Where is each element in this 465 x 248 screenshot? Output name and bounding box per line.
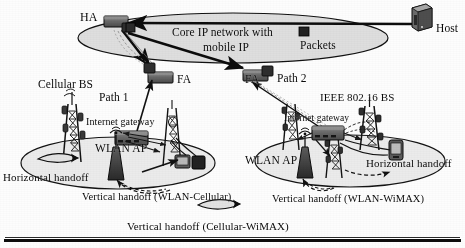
packets-label: Packets: [300, 40, 336, 52]
left-horizontal-handoff-label: Horizontal handoff: [3, 172, 89, 183]
packet-marker: [299, 27, 309, 36]
ha-label: HA: [80, 11, 98, 23]
right-wlan-ap-label: WLAN AP: [245, 155, 297, 167]
right-horizontal-handoff-label: Horizontal handoff: [366, 158, 452, 169]
cross-cell-vertical-handoff-label: Vertical handoff (Cellular-WiMAX): [127, 221, 289, 232]
path1-label: Path 1: [99, 92, 129, 104]
packet-marker: [126, 23, 135, 32]
core-network-label-line1: Core IP network with: [172, 27, 273, 39]
left-cell-handset: [192, 156, 205, 169]
left-vertical-handoff-label: Vertical handoff (WLAN-Cellular): [82, 192, 231, 203]
core-network-label-line2: mobile IP: [203, 42, 249, 54]
path2-label: Path 2: [277, 73, 307, 85]
network-architecture-figure: HA Core IP network with mobile IP Host P…: [0, 0, 465, 248]
fa-left-router-node: [144, 63, 173, 83]
right-vertical-handoff-label: Vertical handoff (WLAN-WiMAX): [272, 194, 424, 205]
ieee-802-16-bs-label: IEEE 802.16 BS: [320, 92, 394, 103]
right-internet-gateway-node: [312, 126, 344, 140]
fa-left-label: FA: [177, 74, 191, 86]
host-label: Host: [436, 23, 458, 35]
left-wlan-ap-label: WLAN AP: [95, 143, 147, 155]
left-internet-gateway-label: Internet gateway: [86, 117, 155, 127]
host-to-ha-link: [128, 23, 414, 24]
fa-right-label: FA: [245, 74, 259, 86]
page-rule-divider: [4, 239, 461, 242]
host-server-icon: [412, 4, 432, 31]
left-cell-mobile-terminal: [175, 155, 190, 168]
right-internet-gateway-label: Internet gateway: [284, 114, 349, 124]
cellular-bs-label: Cellular BS: [38, 79, 93, 91]
